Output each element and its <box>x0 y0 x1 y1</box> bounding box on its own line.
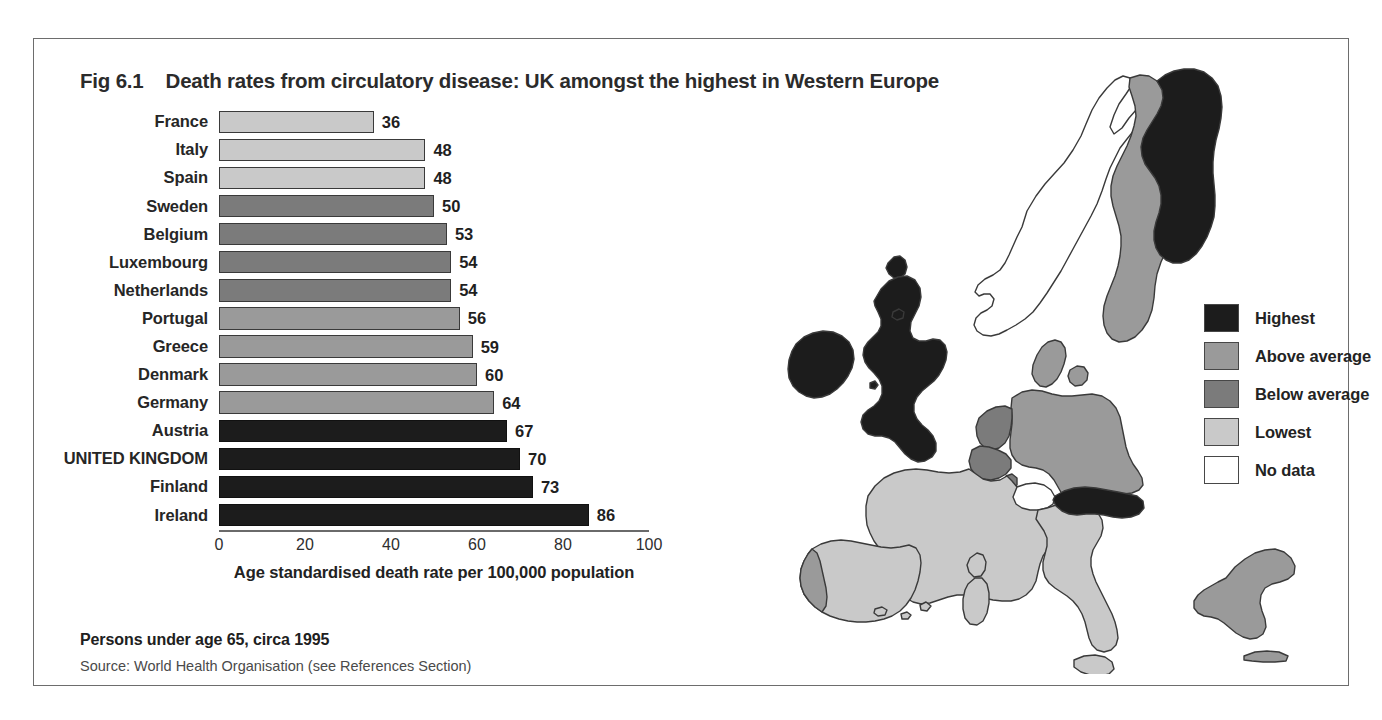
bar-row: Finland73 <box>54 474 754 500</box>
bar-category-label: Netherlands <box>54 281 219 300</box>
bar-category-label: UNITED KINGDOM <box>54 449 219 468</box>
bar-track: 54 <box>219 278 649 304</box>
figure-frame: Fig 6.1 Death rates from circulatory dis… <box>33 38 1349 686</box>
bar <box>219 420 507 443</box>
bar-list: France36Italy48Spain48Sweden50Belgium53L… <box>54 109 754 528</box>
bar-value-label: 50 <box>442 197 460 216</box>
map-region-ireland <box>788 331 854 398</box>
bar <box>219 307 460 330</box>
bar-category-label: Belgium <box>54 225 219 244</box>
bar-track: 70 <box>219 446 649 472</box>
bar-category-label: Finland <box>54 477 219 496</box>
bar-category-label: Sweden <box>54 197 219 216</box>
bar-row: Italy48 <box>54 137 754 163</box>
bar-category-label: Greece <box>54 337 219 356</box>
bar-value-label: 86 <box>597 506 615 525</box>
x-axis-tick-label: 100 <box>636 536 663 554</box>
bar-value-label: 48 <box>433 140 451 159</box>
legend-label: Below average <box>1255 385 1369 404</box>
bar <box>219 448 520 471</box>
bar-category-label: Austria <box>54 421 219 440</box>
bar-track: 56 <box>219 306 649 332</box>
legend-swatch-above_average <box>1204 342 1239 370</box>
map-region-small-island-a <box>901 612 911 619</box>
map-region-greece <box>1194 549 1295 639</box>
legend-row: Highest <box>1204 299 1371 337</box>
bar-track: 48 <box>219 137 649 163</box>
bar <box>219 279 451 302</box>
bar-value-label: 53 <box>455 225 473 244</box>
legend-row: Above average <box>1204 337 1371 375</box>
legend-label: Above average <box>1255 347 1371 366</box>
x-axis-tick-label: 80 <box>554 536 572 554</box>
bar-value-label: 54 <box>459 253 477 272</box>
bar-track: 67 <box>219 418 649 444</box>
legend-row: Below average <box>1204 375 1371 413</box>
bar-category-label: France <box>54 112 219 131</box>
bar-track: 53 <box>219 221 649 247</box>
bar-row: Belgium53 <box>54 221 754 247</box>
map-region-crete <box>1244 651 1288 662</box>
x-axis-tick-label: 20 <box>296 536 314 554</box>
legend-swatch-no_data <box>1204 456 1239 484</box>
bar-track: 73 <box>219 474 649 500</box>
bar <box>219 139 425 162</box>
x-axis-tick-label: 40 <box>382 536 400 554</box>
map-region-switzerland <box>1013 483 1055 510</box>
bar <box>219 111 374 134</box>
x-axis-line <box>219 530 649 532</box>
legend-label: Highest <box>1255 309 1315 328</box>
bar-row: Portugal56 <box>54 306 754 332</box>
bar-category-label: Germany <box>54 393 219 412</box>
bar-value-label: 73 <box>541 477 559 496</box>
bar-track: 54 <box>219 249 649 275</box>
bar-value-label: 70 <box>528 449 546 468</box>
bar-row: Sweden50 <box>54 193 754 219</box>
bar-value-label: 60 <box>485 365 503 384</box>
map-region-denmark <box>1032 340 1066 387</box>
bar-value-label: 56 <box>468 309 486 328</box>
map-region-denmark-islands <box>1068 366 1088 386</box>
legend-swatch-lowest <box>1204 418 1239 446</box>
bar-track: 48 <box>219 165 649 191</box>
x-axis-label: Age standardised death rate per 100,000 … <box>234 563 634 582</box>
bar-row: UNITED KINGDOM70 <box>54 446 754 472</box>
bar-category-label: Luxembourg <box>54 253 219 272</box>
bar-category-label: Portugal <box>54 309 219 328</box>
figure-source: Source: World Health Organisation (see R… <box>80 658 471 674</box>
bar <box>219 391 494 414</box>
bar-value-label: 48 <box>433 168 451 187</box>
bar-row: Netherlands54 <box>54 278 754 304</box>
bar-value-label: 59 <box>481 337 499 356</box>
bar-category-label: Italy <box>54 140 219 159</box>
bar <box>219 223 447 246</box>
bar-row: France36 <box>54 109 754 135</box>
bar <box>219 195 434 218</box>
figure-number: Fig 6.1 <box>80 69 144 93</box>
bar-row: Ireland86 <box>54 502 754 528</box>
x-axis-tick-label: 60 <box>468 536 486 554</box>
bar <box>219 167 425 190</box>
map-region-balearics <box>874 607 887 616</box>
bar <box>219 476 533 499</box>
bar-row: Luxembourg54 <box>54 249 754 275</box>
bar-track: 60 <box>219 362 649 388</box>
bar-category-label: Ireland <box>54 506 219 525</box>
bar <box>219 363 477 386</box>
bar-track: 64 <box>219 390 649 416</box>
bar <box>219 504 589 527</box>
x-axis: 020406080100 Age standardised death rate… <box>219 530 649 532</box>
bar-value-label: 54 <box>459 281 477 300</box>
map-region-sicily <box>1074 655 1114 674</box>
bar-track: 36 <box>219 109 649 135</box>
legend-label: Lowest <box>1255 423 1311 442</box>
legend-swatch-highest <box>1204 304 1239 332</box>
bar-track: 50 <box>219 193 649 219</box>
legend-row: Lowest <box>1204 413 1371 451</box>
map-region-netherlands <box>976 406 1012 450</box>
choropleth-map: HighestAbove averageBelow averageLowestN… <box>774 44 1334 674</box>
bar-chart: France36Italy48Spain48Sweden50Belgium53L… <box>54 109 754 609</box>
bar-category-label: Spain <box>54 168 219 187</box>
map-region-great-britain-main <box>861 276 947 462</box>
map-region-sardinia <box>963 578 989 625</box>
